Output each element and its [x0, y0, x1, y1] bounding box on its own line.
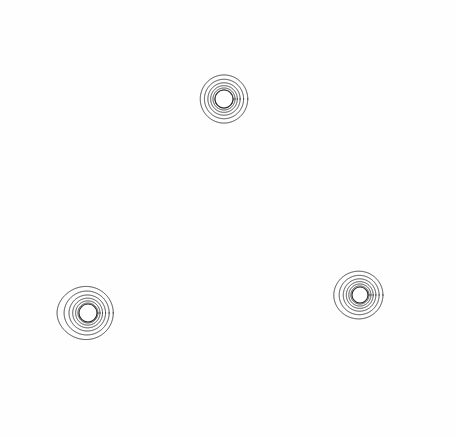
contour-source-core: [79, 304, 97, 322]
top-contour-set: [200, 75, 247, 123]
bottom-right-contour-set: [334, 271, 383, 319]
contour-source-core: [215, 90, 233, 108]
bottom-left-contour-set: [57, 286, 113, 339]
contour-source-core: [352, 287, 368, 303]
contour-figure: [0, 0, 456, 437]
contour-canvas: [0, 0, 456, 437]
